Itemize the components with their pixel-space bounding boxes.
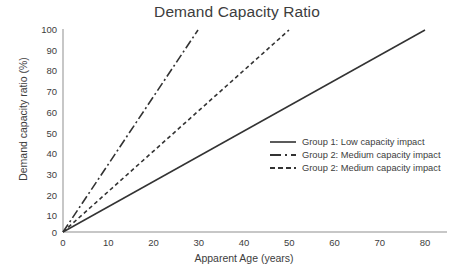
legend-item: Group 2: Medium capacity impact — [270, 162, 470, 174]
legend-swatch-dashed-icon — [270, 163, 296, 173]
legend-item: Group 1: Low capacity impact — [270, 136, 470, 148]
chart-legend: Group 1: Low capacity impact Group 2: Me… — [270, 136, 470, 175]
series-line-group2-dashdot — [63, 30, 198, 232]
legend-swatch-dashdot-icon — [270, 150, 296, 160]
legend-label: Group 1: Low capacity impact — [302, 137, 424, 148]
legend-swatch-solid-icon — [270, 137, 296, 147]
chart-container: Demand Capacity Ratio Demand capacity ra… — [0, 0, 474, 275]
legend-label: Group 2: Medium capacity impact — [302, 163, 440, 174]
series-line-group1-solid — [63, 30, 425, 232]
legend-label: Group 2: Medium capacity impact — [302, 150, 440, 161]
series-line-group2-dashed — [63, 30, 289, 232]
legend-item: Group 2: Medium capacity impact — [270, 149, 470, 161]
